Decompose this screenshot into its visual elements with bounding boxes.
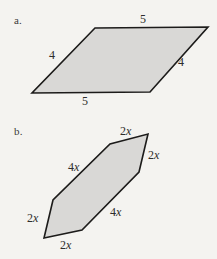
side-label-a-bottom: 5 bbox=[82, 94, 88, 109]
side-label-a-left: 4 bbox=[49, 48, 55, 63]
hexagon-shape-b bbox=[44, 134, 148, 238]
side-label-a-top: 5 bbox=[140, 12, 146, 27]
side-label-b-bottom: 2x bbox=[60, 238, 71, 253]
side-label-a-right: 4 bbox=[178, 55, 184, 70]
part-marker-b: b. bbox=[14, 125, 23, 137]
part-marker-a: a. bbox=[14, 14, 22, 26]
side-label-b-left: 2x bbox=[27, 211, 38, 226]
side-label-b-upper-left: 4x bbox=[68, 160, 79, 175]
side-label-b-top: 2x bbox=[120, 124, 131, 139]
side-label-b-upper-right: 2x bbox=[148, 148, 159, 163]
geometry-figure: a. 5 4 4 5 b. 2x 2x 4x 4x 2x 2x bbox=[0, 0, 217, 259]
side-label-b-lower-right: 4x bbox=[110, 205, 121, 220]
